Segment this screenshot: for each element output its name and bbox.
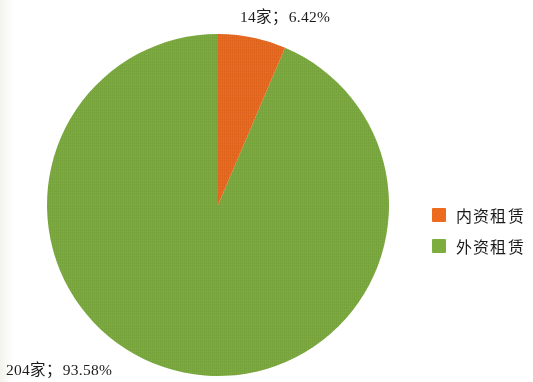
legend-item-foreign-lease[interactable]: 外资租赁 — [432, 230, 532, 261]
data-label-domestic-lease: 14家；6.42% — [240, 4, 330, 26]
data-label-foreign-lease: 204家；93.58% — [6, 357, 112, 379]
paper-edge-tint — [0, 0, 14, 382]
legend-label-foreign-lease: 外资租赁 — [456, 234, 525, 258]
legend-item-domestic-lease[interactable]: 内资租赁 — [432, 199, 532, 230]
chart-legend: 内资租赁 外资租赁 — [432, 199, 532, 261]
legend-label-domestic-lease: 内资租赁 — [456, 203, 525, 227]
pie-chart-svg — [47, 34, 389, 376]
legend-swatch-orange-icon — [432, 208, 446, 222]
legend-swatch-green-icon — [432, 239, 446, 253]
pie-chart-figure: 14家；6.42% 204家；93.58% 内资租赁 外资租赁 — [0, 0, 533, 382]
pie-chart-plot-area — [47, 34, 389, 376]
